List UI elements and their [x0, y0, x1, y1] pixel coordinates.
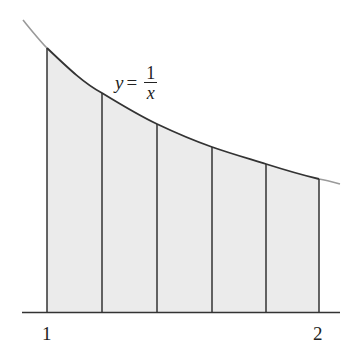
- riemann-sum-diagram: y = 1 x 1 2: [0, 0, 355, 363]
- function-label-denominator: x: [147, 83, 155, 102]
- x-tick-label-1: 1: [42, 323, 52, 345]
- x-tick-label-2: 2: [313, 323, 323, 345]
- function-label-numerator: 1: [144, 64, 157, 83]
- function-label-fraction: 1 x: [144, 64, 157, 102]
- function-label: y = 1 x: [115, 64, 157, 102]
- function-label-equals: =: [126, 72, 137, 94]
- shaded-area: [47, 48, 319, 312]
- curve-left-extension: [23, 20, 47, 48]
- diagram-canvas: [0, 0, 355, 363]
- curve-right-extension: [319, 179, 340, 184]
- function-label-lhs: y: [115, 72, 123, 94]
